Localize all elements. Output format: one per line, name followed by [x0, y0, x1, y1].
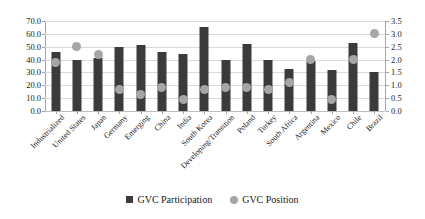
- bar-gvc-participation[interactable]: [285, 69, 294, 111]
- marker-gvc-position[interactable]: [179, 95, 188, 104]
- y-axis-right-tick-label: 2.5: [391, 43, 402, 52]
- y-axis-right-tick: [386, 60, 389, 61]
- y-axis-left-tick: [42, 47, 45, 48]
- x-axis-category-label: Brazil: [365, 113, 385, 133]
- y-axis-left-tick-label: 10.0: [26, 94, 41, 103]
- bar-gvc-participation[interactable]: [349, 43, 358, 111]
- bar-gvc-participation[interactable]: [72, 60, 81, 111]
- marker-gvc-position[interactable]: [349, 55, 358, 64]
- bar-group[interactable]: [194, 21, 215, 111]
- y-axis-left-tick: [42, 72, 45, 73]
- y-axis-left-tick-label: 20.0: [26, 81, 41, 90]
- y-axis-right-tick: [386, 34, 389, 35]
- bar-group[interactable]: [236, 21, 257, 111]
- bar-group[interactable]: [321, 21, 342, 111]
- y-axis-right-tick: [386, 85, 389, 86]
- y-axis-left-tick-label: 50.0: [26, 43, 41, 52]
- marker-gvc-position[interactable]: [264, 85, 273, 94]
- bar-gvc-participation[interactable]: [136, 45, 145, 111]
- bar-gvc-participation[interactable]: [306, 61, 315, 111]
- y-axis-left-tick: [42, 85, 45, 86]
- marker-gvc-position[interactable]: [72, 42, 81, 51]
- y-axis-right-labels: 0.00.51.01.52.02.53.03.5: [391, 0, 425, 219]
- bar-group[interactable]: [364, 21, 385, 111]
- y-axis-right-tick-label: 0.5: [391, 94, 402, 103]
- bar-group[interactable]: [66, 21, 87, 111]
- y-axis-right-tick-label: 2.0: [391, 56, 402, 65]
- bar-gvc-participation[interactable]: [115, 47, 124, 111]
- gridline: [45, 111, 385, 112]
- marker-gvc-position[interactable]: [136, 90, 145, 99]
- bar-group[interactable]: [130, 21, 151, 111]
- y-axis-right-tick-label: 3.5: [391, 17, 402, 26]
- bar-group[interactable]: [279, 21, 300, 111]
- y-axis-right-tick: [386, 72, 389, 73]
- bar-gvc-participation[interactable]: [327, 70, 336, 111]
- y-axis-right-tick-label: 1.5: [391, 68, 402, 77]
- bar-group[interactable]: [258, 21, 279, 111]
- y-axis-left-tick-label: 30.0: [26, 68, 41, 77]
- bar-group[interactable]: [215, 21, 236, 111]
- x-axis-category-label: Poland: [235, 113, 257, 135]
- bar-group[interactable]: [151, 21, 172, 111]
- y-axis-right-tick: [386, 111, 389, 112]
- bar-group[interactable]: [88, 21, 109, 111]
- y-axis-right-tick: [386, 98, 389, 99]
- bar-group[interactable]: [173, 21, 194, 111]
- bar-gvc-participation[interactable]: [157, 52, 166, 111]
- x-axis-category-label: China: [152, 113, 172, 133]
- y-axis-left-tick-label: 40.0: [26, 56, 41, 65]
- legend-item-gvc-position[interactable]: GVC Position: [230, 194, 298, 205]
- bar-gvc-participation[interactable]: [242, 44, 251, 111]
- y-axis-left-tick: [42, 60, 45, 61]
- y-axis-left-tick: [42, 98, 45, 99]
- marker-gvc-position[interactable]: [51, 58, 60, 67]
- y-axis-right-tick-label: 0.0: [391, 107, 402, 116]
- bar-gvc-participation[interactable]: [200, 27, 209, 111]
- x-axis-category-label: Chile: [345, 113, 364, 132]
- marker-gvc-position[interactable]: [94, 50, 103, 59]
- x-axis-category-label: Mexico: [319, 113, 343, 137]
- y-axis-left-tick: [42, 111, 45, 112]
- marker-gvc-position[interactable]: [370, 29, 379, 38]
- chart-legend: GVC Participation GVC Position: [0, 194, 425, 205]
- legend-square-icon: [126, 196, 133, 203]
- gvc-chart: 0.010.020.030.040.050.060.070.0 0.00.51.…: [0, 0, 425, 219]
- legend-item-gvc-participation[interactable]: GVC Participation: [126, 194, 212, 205]
- x-axis-category-labels: IndustrializedUnited StatesJapanGermanyE…: [45, 113, 385, 183]
- y-axis-left-labels: 0.010.020.030.040.050.060.070.0: [0, 0, 41, 219]
- y-axis-left-tick-label: 0.0: [30, 107, 41, 116]
- legend-label-gvc-position: GVC Position: [242, 194, 298, 205]
- bar-gvc-participation[interactable]: [370, 72, 379, 111]
- y-axis-right-tick-label: 1.0: [391, 81, 402, 90]
- y-axis-left-tick-label: 70.0: [26, 17, 41, 26]
- y-axis-left-tick: [42, 34, 45, 35]
- y-axis-left-tick-label: 60.0: [26, 30, 41, 39]
- legend-label-gvc-participation: GVC Participation: [137, 194, 212, 205]
- plot-area: [45, 21, 385, 111]
- bar-group[interactable]: [45, 21, 66, 111]
- y-axis-right-tick: [386, 21, 389, 22]
- marker-gvc-position[interactable]: [115, 85, 124, 94]
- y-axis-right-tick-label: 3.0: [391, 30, 402, 39]
- bar-gvc-participation[interactable]: [94, 58, 103, 111]
- y-axis-right-tick: [386, 47, 389, 48]
- y-axis-left-tick: [42, 21, 45, 22]
- bar-group[interactable]: [300, 21, 321, 111]
- bar-group[interactable]: [109, 21, 130, 111]
- legend-circle-icon: [230, 196, 238, 204]
- marker-gvc-position[interactable]: [200, 85, 209, 94]
- bar-group[interactable]: [343, 21, 364, 111]
